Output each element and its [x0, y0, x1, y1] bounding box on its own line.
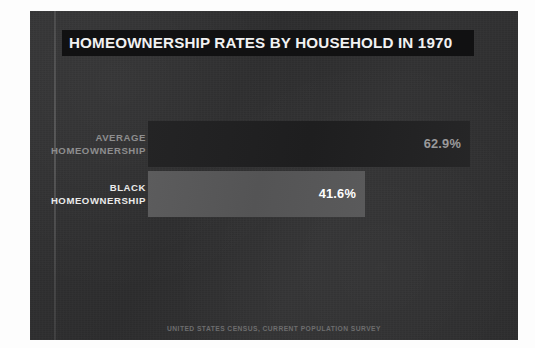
bar-average: 62.9%	[148, 121, 470, 167]
page-title: HOMEOWNERSHIP RATES BY HOUSEHOLD IN 1970	[69, 35, 452, 50]
bar-chart: AVERAGE HOMEOWNERSHIP 62.9% BLACK HOMEOW…	[30, 121, 518, 221]
bar-label-average-line2: HOMEOWNERSHIP	[51, 144, 146, 157]
bar-value-black: 41.6%	[319, 188, 356, 201]
bar-label-average: AVERAGE HOMEOWNERSHIP	[51, 132, 146, 157]
source-caption: UNITED STATES CENSUS, CURRENT POPULATION…	[30, 325, 518, 332]
bar-label-average-line1: AVERAGE	[51, 132, 146, 145]
bar-label-black-line1: BLACK	[51, 182, 146, 195]
chart-row-average: AVERAGE HOMEOWNERSHIP 62.9%	[30, 121, 518, 167]
chart-row-black: BLACK HOMEOWNERSHIP 41.6%	[30, 171, 518, 217]
bar-black: 41.6%	[148, 171, 365, 217]
bar-label-black: BLACK HOMEOWNERSHIP	[51, 182, 146, 207]
page-background: HOMEOWNERSHIP RATES BY HOUSEHOLD IN 1970…	[0, 0, 535, 348]
title-band: HOMEOWNERSHIP RATES BY HOUSEHOLD IN 1970	[62, 30, 474, 56]
bar-label-black-line2: HOMEOWNERSHIP	[51, 194, 146, 207]
infographic-panel: HOMEOWNERSHIP RATES BY HOUSEHOLD IN 1970…	[30, 11, 518, 340]
bar-value-average: 62.9%	[424, 138, 461, 151]
